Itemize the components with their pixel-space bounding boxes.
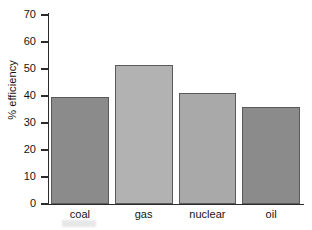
bar-oil: [242, 107, 300, 204]
y-axis-tick-label: 20: [0, 144, 36, 155]
y-axis-tick: [41, 176, 48, 177]
bar-nuclear: [179, 93, 237, 204]
y-axis-tick-label: 70: [0, 9, 36, 20]
bar-gas: [115, 65, 173, 204]
y-axis-tick-label: 0: [0, 198, 36, 209]
y-axis-tick: [41, 68, 48, 69]
bar-coal: [51, 97, 109, 204]
scan-artifact: [62, 220, 96, 227]
category-label-gas: gas: [115, 208, 173, 220]
y-axis-tick: [41, 95, 48, 96]
y-axis-tick: [41, 203, 48, 204]
y-axis-tick: [41, 122, 48, 123]
y-axis-tick-label: 40: [0, 90, 36, 101]
y-axis-tick-label: 30: [0, 117, 36, 128]
category-label-coal: coal: [51, 208, 109, 220]
y-axis-tick: [41, 41, 48, 42]
y-axis-tick-label: 60: [0, 36, 36, 47]
y-axis-tick: [41, 14, 48, 15]
category-label-oil: oil: [242, 208, 300, 220]
bar-chart-figure: % efficiency 010203040506070 coalgasnucl…: [0, 0, 312, 230]
y-axis-tick-label: 10: [0, 171, 36, 182]
y-axis-tick: [41, 149, 48, 150]
y-axis-tick-label: 50: [0, 63, 36, 74]
category-label-nuclear: nuclear: [179, 208, 237, 220]
plot-area: [48, 10, 303, 204]
